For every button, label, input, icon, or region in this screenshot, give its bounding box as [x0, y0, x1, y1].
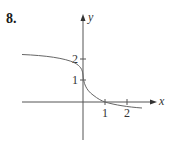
function-curve — [22, 55, 142, 109]
y-axis-arrow-icon — [81, 14, 86, 21]
graph: 1 2 1 2 x y — [0, 0, 184, 141]
x-tick-label-1: 1 — [102, 106, 108, 120]
x-tick-label-2: 2 — [124, 106, 130, 120]
x-axis-arrow-icon — [150, 100, 157, 105]
y-axis-label: y — [87, 10, 94, 24]
x-axis-label: x — [158, 94, 165, 108]
y-tick-label-1: 1 — [72, 73, 78, 87]
